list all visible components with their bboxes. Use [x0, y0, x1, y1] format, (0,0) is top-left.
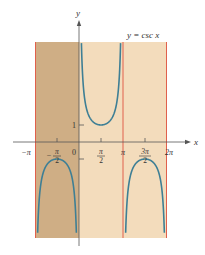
x-tick-neg-half-pi-den: 2 [55, 156, 59, 165]
x-tick-neg-half-pi-minus: − [47, 151, 52, 160]
chart-title: y = csc x [126, 30, 159, 40]
x-tick-three-half-pi-num: 3π [140, 147, 149, 156]
x-tick-neg-pi: −π [21, 148, 31, 157]
x-tick-neg-half-pi-num: π [55, 147, 59, 156]
x-axis-arrow-icon [185, 140, 191, 144]
y-tick-label-1: 1 [72, 121, 76, 130]
x-tick-zero: 0 [72, 148, 76, 157]
x-tick-two-pi: 2π [165, 148, 174, 157]
x-tick-half-pi-num: π [99, 147, 103, 156]
x-axis-label: x [193, 137, 198, 147]
chart-title-text: y = csc x [126, 30, 159, 40]
x-tick-half-pi-den: 2 [99, 156, 103, 165]
y-axis-label: y [75, 8, 80, 18]
y-axis-arrow-icon [77, 20, 81, 26]
x-tick-three-half-pi-den: 2 [143, 156, 147, 165]
csc-graph: x y 1 −π − π 2 0 π 2 π 3π 2 2π y = csc x [0, 0, 205, 255]
